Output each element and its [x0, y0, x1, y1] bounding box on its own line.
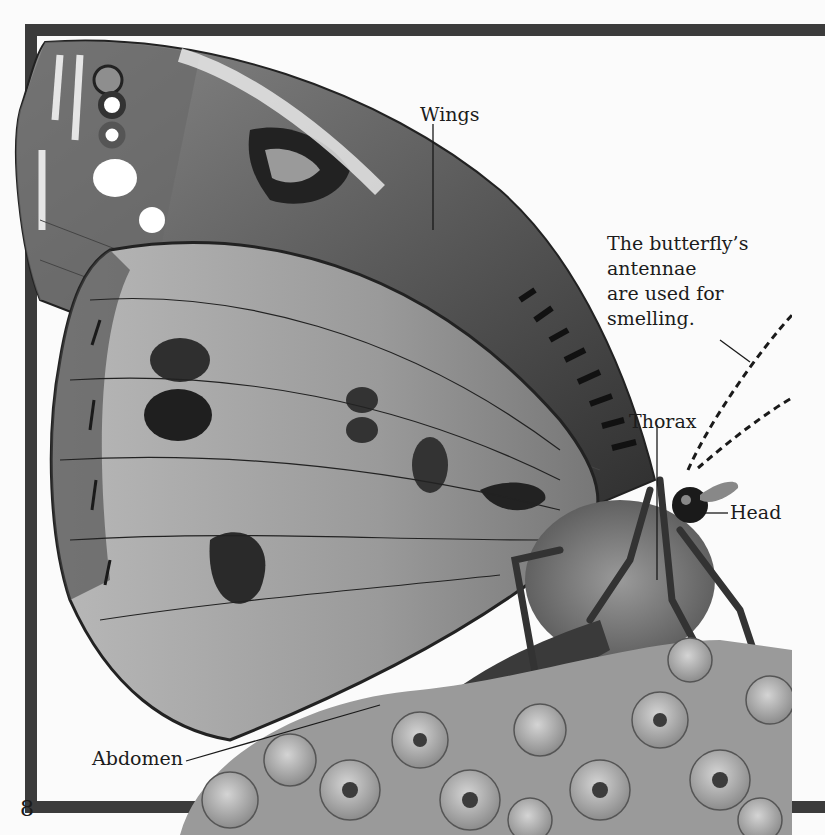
caption-line: smelling.	[607, 306, 748, 331]
antennae	[688, 315, 792, 470]
caption-line: antennae	[607, 256, 748, 281]
page-number: 8	[20, 796, 34, 821]
label-head: Head	[730, 501, 781, 524]
caption-line: The butterfly’s	[607, 231, 748, 256]
label-wings: Wings	[420, 103, 479, 126]
antennae-caption: The butterfly’s antennae are used for sm…	[607, 231, 748, 331]
label-thorax: Thorax	[629, 410, 696, 433]
caption-line: are used for	[607, 281, 748, 306]
label-abdomen: Abdomen	[92, 747, 183, 770]
